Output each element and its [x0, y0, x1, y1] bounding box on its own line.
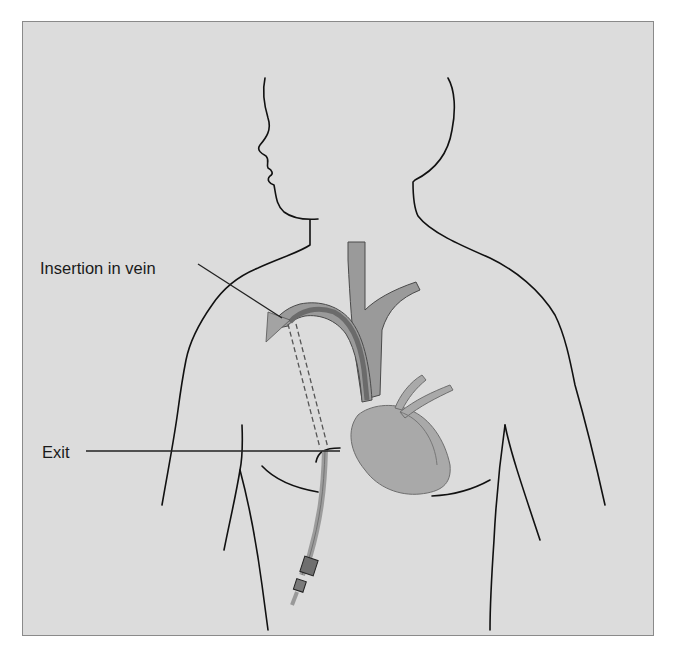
catheter-hub-large [300, 556, 318, 576]
insertion-label: Insertion in vein [40, 260, 156, 277]
exit-site [316, 448, 340, 462]
exit-label: Exit [42, 444, 70, 461]
right-arm-inner [505, 425, 540, 540]
left-arm-inner [224, 425, 242, 550]
left-pectoral [262, 466, 318, 492]
face-profile [259, 78, 318, 219]
right-torso-side [490, 425, 505, 630]
tunnel-dashed-1 [288, 324, 320, 448]
heart [351, 405, 450, 494]
catheter-tip [292, 592, 297, 605]
anatomy-illustration [0, 0, 675, 652]
left-torso-side [240, 470, 268, 630]
insertion-leader-line [198, 264, 282, 318]
catheter-hub-small [293, 579, 306, 593]
tunnel-dashed-2 [296, 324, 328, 448]
neck-left [162, 220, 310, 505]
